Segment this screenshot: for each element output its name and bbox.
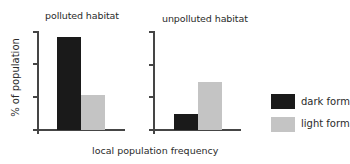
y-tick	[149, 31, 154, 33]
bar-dark-form	[174, 114, 198, 130]
y-axis-line	[153, 31, 155, 134]
y-tick	[149, 64, 154, 66]
y-tick	[149, 96, 154, 98]
legend-swatch-light	[271, 117, 295, 132]
bar-light-form	[198, 82, 222, 130]
legend: dark form light form	[271, 94, 347, 134]
legend-swatch-dark	[271, 94, 295, 109]
legend-label-dark: dark form	[301, 96, 350, 107]
chart-unpolluted	[0, 0, 250, 140]
legend-label-light: light form	[301, 118, 350, 129]
x-axis-label: local population frequency	[92, 145, 218, 156]
